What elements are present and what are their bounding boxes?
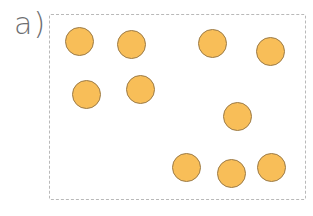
dot-circle (172, 153, 201, 182)
dot-circle (65, 27, 94, 56)
dot-circle (126, 75, 155, 104)
dot-circle (117, 30, 146, 59)
dot-circle (223, 102, 252, 131)
item-label: a) (14, 6, 46, 42)
dot-circle (257, 153, 286, 182)
dot-circle (256, 37, 285, 66)
dot-circle (217, 159, 246, 188)
dot-circle (198, 29, 227, 58)
dot-circle (72, 80, 101, 109)
